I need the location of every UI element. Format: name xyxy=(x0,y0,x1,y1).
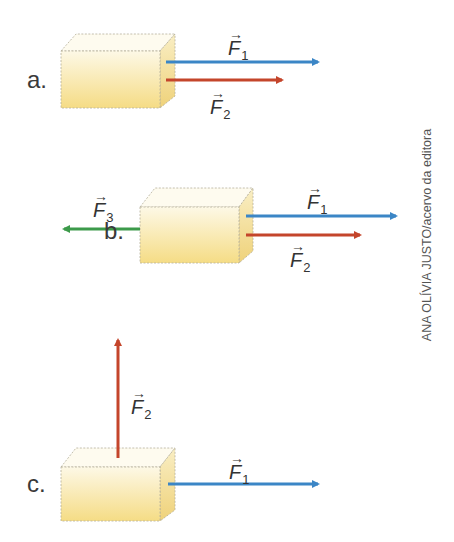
box-a xyxy=(61,34,175,108)
vector-label-a-f2: →F2 xyxy=(210,97,230,121)
vector-arrow-icon: → xyxy=(94,189,108,203)
panel-label-a: a. xyxy=(27,68,47,92)
box-c xyxy=(61,448,175,521)
vector-arrow-icon: → xyxy=(229,27,243,41)
vector-label-a-f1: →F1 xyxy=(228,38,248,62)
vector-label-c-f2: →F2 xyxy=(131,397,151,421)
vector-arrow-icon: → xyxy=(291,239,305,253)
vector-arrow-icon: → xyxy=(211,86,225,100)
box-b xyxy=(140,188,253,263)
panel-label-c: c. xyxy=(27,472,46,496)
vector-label-c-f1: →F1 xyxy=(229,462,249,486)
vector-arrow-icon: → xyxy=(308,181,322,195)
vector-arrow-icon: → xyxy=(132,386,146,400)
vector-arrow-icon: → xyxy=(230,451,244,465)
vector-label-b-f2: →F2 xyxy=(290,250,310,274)
force-diagram xyxy=(0,0,454,542)
image-credit: ANA OLÍVIA JUSTO/acervo da editora xyxy=(420,129,434,341)
vector-label-b-f3: →F3 xyxy=(93,200,113,224)
vector-label-b-f1: →F1 xyxy=(307,192,327,216)
